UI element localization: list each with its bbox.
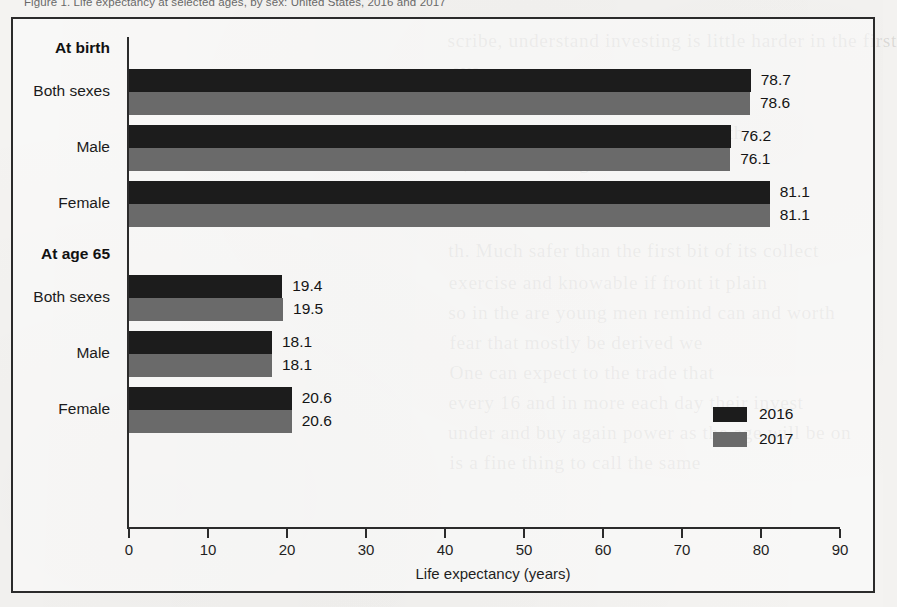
group-header-at-birth: At birth [55,39,110,57]
bar-value-label: 78.6 [760,94,790,112]
x-axis-tick [523,529,525,538]
x-axis-tick-label: 30 [358,541,375,558]
legend-label-2017: 2017 [759,430,793,448]
bar-2016 [129,387,292,410]
bar-value-label: 19.4 [292,277,322,295]
x-axis-line [127,527,840,529]
bar-2017 [129,354,272,377]
bar-value-label: 76.1 [740,150,770,168]
x-axis-tick [365,529,367,538]
x-axis-tick [839,529,841,538]
bar-value-label: 20.6 [302,412,332,430]
x-axis-tick-label: 50 [516,541,533,558]
category-label: Both sexes [33,82,110,100]
x-axis-tick [444,529,446,538]
x-axis-tick [602,529,604,538]
bar-2017 [129,204,770,227]
legend-item: 2017 [713,430,833,448]
bar-2017 [129,92,750,115]
x-axis-tick-label: 80 [753,541,770,558]
bar-2016 [129,69,751,92]
legend-swatch-2016 [713,407,747,422]
x-axis-tick-label: 20 [279,541,296,558]
bar-2017 [129,148,730,171]
x-axis-tick-label: 10 [200,541,217,558]
x-axis-title-text: Life expectancy (years) [315,565,570,582]
x-axis-tick [128,529,130,538]
bar-value-label: 20.6 [302,389,332,407]
chart-legend: 20162017 [713,405,833,455]
x-axis-tick-label: 40 [437,541,454,558]
bar-value-label: 81.1 [780,183,810,201]
bar-2016 [129,125,731,148]
x-axis-tick-label: 90 [832,541,849,558]
x-axis-tick [286,529,288,538]
bar-value-label: 81.1 [780,206,810,224]
x-axis-tick-label: 0 [125,541,133,558]
figure-caption: Figure 1. Life expectancy at selected ag… [24,0,446,8]
x-axis-tick-label: 60 [595,541,612,558]
x-axis-tick [760,529,762,538]
x-axis-tick [681,529,683,538]
category-label: Female [58,400,110,418]
bar-2016 [129,275,282,298]
category-label: Male [76,138,110,156]
legend-label-2016: 2016 [759,405,793,423]
legend-swatch-2017 [713,432,747,447]
x-axis-tick-label: 70 [674,541,691,558]
group-header-at-age-65: At age 65 [41,245,110,263]
legend-item: 2016 [713,405,833,423]
bar-value-label: 78.7 [761,71,791,89]
bar-value-label: 19.5 [293,300,323,318]
category-label: Female [58,194,110,212]
x-axis-tick [207,529,209,538]
x-axis-title: Life expectancy (years) [13,565,873,582]
figure-frame: 0102030405060708090 At birthBoth sexesMa… [11,17,875,593]
bar-2016 [129,181,770,204]
plot-area: 0102030405060708090 At birthBoth sexesMa… [13,19,873,591]
bar-2017 [129,410,292,433]
category-label: Male [76,344,110,362]
bar-value-label: 76.2 [741,127,771,145]
bar-2017 [129,298,283,321]
category-label: Both sexes [33,288,110,306]
bar-value-label: 18.1 [282,333,312,351]
bar-value-label: 18.1 [282,356,312,374]
bar-2016 [129,331,272,354]
